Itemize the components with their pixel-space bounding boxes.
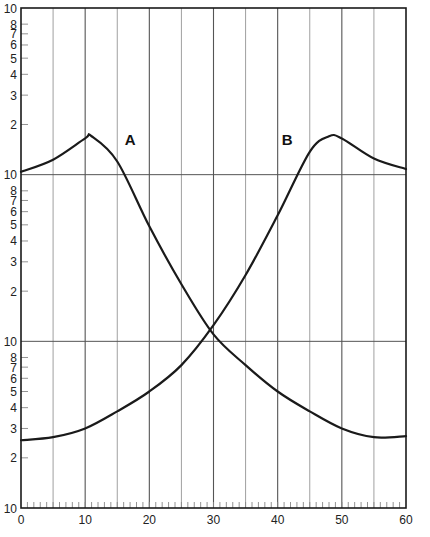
y-tick-label: 4 [10,234,17,248]
x-axis-ticks: 0102030405060 [18,502,413,527]
x-tick-label: 40 [271,513,285,527]
curve-label-a: A [125,131,136,148]
y-tick-label: 4 [10,68,17,82]
y-tick-label: 2 [10,451,17,465]
curve-label-b: B [282,131,293,148]
y-tick-label: 5 [10,52,17,66]
y-tick-label: 5 [10,385,17,399]
y-tick-label: 8 [10,351,17,365]
y-tick-label: 3 [10,422,17,436]
y-tick-label: 8 [10,184,17,198]
y-decade-label: 10 [4,335,18,349]
x-tick-label: 20 [143,513,157,527]
x-tick-label: 10 [78,513,92,527]
x-tick-label: 50 [335,513,349,527]
curve-labels: AB [125,131,293,148]
y-tick-label: 4 [10,401,17,415]
y-decade-label: 10 [4,168,18,182]
y-tick-label: 8 [10,18,17,32]
x-tick-label: 0 [18,513,25,527]
y-tick-label: 2 [10,285,17,299]
y-tick-label: 2 [10,118,17,132]
x-tick-label: 30 [207,513,221,527]
y-decade-label: 10 [4,502,18,516]
y-tick-label: 3 [10,89,17,103]
y-axis-ticks: 10234567810234567810234567810 [4,2,28,516]
grid-lines [21,8,406,508]
y-tick-label: 5 [10,218,17,232]
x-tick-label: 60 [399,513,413,527]
y-decade-label: 10 [4,2,18,16]
y-tick-label: 3 [10,255,17,269]
log-scale-line-chart: 10234567810234567810234567810 0102030405… [0,0,430,537]
